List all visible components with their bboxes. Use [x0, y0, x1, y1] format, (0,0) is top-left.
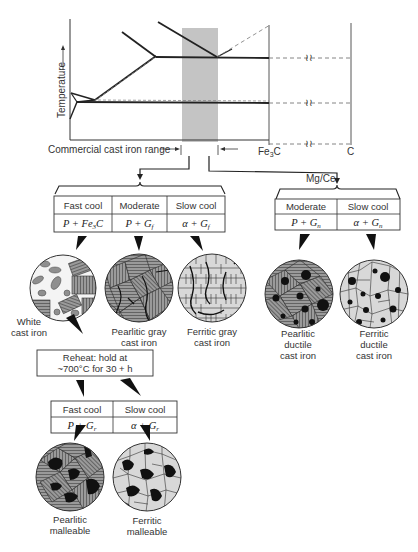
axis-break-symbol: ≀≀ — [305, 52, 313, 63]
caption-pearlitic-ductile: ductile — [284, 339, 311, 350]
caption-pearlitic-gray: cast iron — [121, 337, 157, 348]
caption-ferritic-gray: cast iron — [194, 337, 230, 348]
cast-iron-diagram: ≀≀ ≀≀ ≀≀ Temperature Commercial cast iro… — [0, 0, 418, 552]
row2-captions: Pearlitic malleable Ferritic malleable — [50, 514, 168, 537]
reheat-line1: Reheat: hold at — [63, 352, 128, 363]
carbon-label: C — [347, 146, 354, 157]
axis-break-symbol: ≀≀ — [305, 138, 313, 149]
malleable-iron-cooling-table: Fast cool Slow cool P + Gr α + Gr — [51, 401, 177, 441]
caption-ferritic-ductile: cast iron — [356, 350, 392, 361]
microstructure-pearlitic-malleable — [36, 440, 104, 511]
microstructure-white-cast-iron — [28, 253, 101, 321]
header-slow-cool: Slow cool — [125, 404, 166, 415]
caption-ferritic-ductile: ductile — [360, 339, 387, 350]
caption-pearlitic-malleable: malleable — [50, 525, 91, 536]
header-fast-cool: Fast cool — [64, 200, 103, 211]
microstructure-pearlitic-gray-cast-iron — [100, 254, 175, 328]
caption-pearlitic-ductile: cast iron — [280, 350, 316, 361]
cast-iron-range-band — [182, 28, 218, 142]
caption-ferritic-ductile: Ferritic — [359, 328, 388, 339]
range-label: Commercial cast iron range — [48, 144, 171, 155]
y-axis-label: Temperature — [56, 61, 67, 118]
header-fast-cool: Fast cool — [63, 404, 102, 415]
microstructure-pearlitic-ductile-cast-iron — [265, 260, 333, 330]
fe3c-label: Fe3C — [258, 146, 281, 158]
ductile-iron-cooling-table: Moderate Slow cool P + Gn α + Gn — [275, 199, 400, 250]
branch-arrows: Mg/Ce — [55, 156, 400, 199]
header-slow-cool: Slow cool — [348, 201, 389, 212]
header-moderate: Moderate — [119, 200, 159, 211]
caption-white: cast iron — [11, 327, 47, 338]
gray-iron-cooling-table: Fast cool Moderate Slow cool P + Fe3C P … — [54, 196, 225, 251]
axis-break-symbol: ≀≀ — [305, 97, 313, 108]
caption-pearlitic-ductile: Pearlitic — [281, 328, 315, 339]
header-moderate: Moderate — [286, 201, 326, 212]
microstructure-ferritic-malleable — [113, 440, 181, 512]
microstructure-ferritic-gray-cast-iron — [178, 254, 246, 324]
caption-ferritic-gray: Ferritic gray — [187, 326, 237, 337]
caption-pearlitic-gray: Pearlitic gray — [112, 326, 167, 337]
phase-diagram: ≀≀ ≀≀ ≀≀ Temperature Commercial cast iro… — [48, 19, 354, 158]
mg-ce-label: Mg/Ce — [306, 173, 336, 184]
header-slow-cool: Slow cool — [176, 200, 217, 211]
reheat-line2: ~700°C for 30 + h — [57, 363, 132, 374]
caption-pearlitic-malleable: Pearlitic — [53, 514, 87, 525]
caption-ferritic-malleable: malleable — [127, 526, 168, 537]
caption-ferritic-malleable: Ferritic — [132, 515, 161, 526]
microstructure-ferritic-ductile-cast-iron — [340, 260, 408, 330]
caption-white: White — [17, 316, 41, 327]
